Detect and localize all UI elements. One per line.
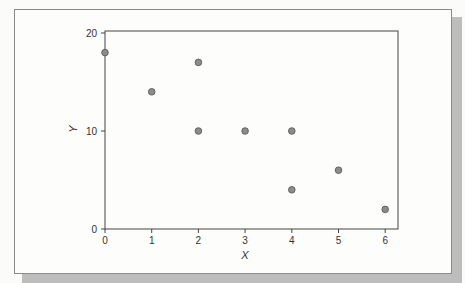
data-point	[195, 128, 202, 135]
y-axis-title: Y	[67, 125, 79, 133]
data-point	[289, 128, 296, 135]
x-axis-title: X	[240, 249, 249, 261]
x-tick-label: 1	[149, 235, 155, 246]
x-tick-label: 2	[196, 235, 202, 246]
y-tick-label: 20	[86, 28, 98, 39]
data-point	[289, 187, 296, 194]
x-tick-label: 4	[289, 235, 295, 246]
x-tick-label: 0	[102, 235, 108, 246]
scatter-plot: 012345601020 X Y	[0, 0, 465, 283]
data-point	[335, 167, 342, 174]
axes: 012345601020	[86, 28, 398, 247]
x-tick-label: 5	[336, 235, 342, 246]
x-tick-label: 6	[382, 235, 388, 246]
y-tick-label: 10	[86, 126, 98, 137]
data-point	[102, 49, 109, 56]
y-tick-label: 0	[91, 224, 97, 235]
data-points	[102, 49, 389, 212]
x-tick-label: 3	[242, 235, 248, 246]
data-point	[195, 59, 202, 66]
data-point	[242, 128, 249, 135]
plot-area	[105, 31, 398, 229]
data-point	[382, 206, 389, 213]
data-point	[148, 89, 155, 96]
